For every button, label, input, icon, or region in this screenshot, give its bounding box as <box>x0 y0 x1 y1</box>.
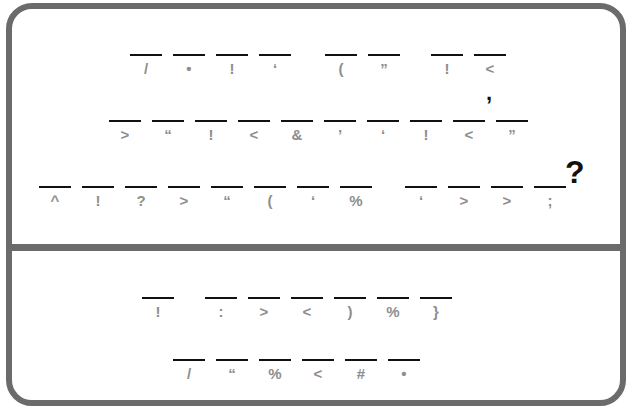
cipher-symbol: ‘ <box>367 126 399 144</box>
letter-slot[interactable]: > <box>168 186 200 216</box>
blank-line[interactable] <box>248 297 280 299</box>
letter-slot[interactable]: • <box>173 54 205 84</box>
cipher-symbol: # <box>345 365 377 383</box>
cipher-symbol: > <box>248 303 280 321</box>
letter-slot[interactable]: “ <box>216 359 248 389</box>
letter-slot[interactable]: < <box>238 120 270 150</box>
blank-line[interactable] <box>474 54 506 56</box>
blank-line[interactable] <box>152 120 184 122</box>
letter-slot[interactable]: : <box>205 297 237 327</box>
blank-line[interactable] <box>109 120 141 122</box>
letter-slot[interactable]: ‘ <box>405 186 437 216</box>
cipher-symbol: < <box>453 126 485 144</box>
letter-slot[interactable]: > <box>448 186 480 216</box>
letter-slot[interactable]: < <box>453 120 485 150</box>
cipher-symbol: “ <box>211 192 243 210</box>
blank-line[interactable] <box>345 359 377 361</box>
letter-slot[interactable]: # <box>345 359 377 389</box>
blank-line[interactable] <box>453 120 485 122</box>
blank-line[interactable] <box>334 297 366 299</box>
letter-slot[interactable]: ( <box>325 54 357 84</box>
blank-line[interactable] <box>534 186 566 188</box>
blank-line[interactable] <box>39 186 71 188</box>
letter-slot[interactable]: > <box>491 186 523 216</box>
blank-line[interactable] <box>281 120 313 122</box>
letter-slot[interactable]: ! <box>195 120 227 150</box>
blank-line[interactable] <box>205 297 237 299</box>
blank-line[interactable] <box>254 186 286 188</box>
letter-slot[interactable]: ! <box>82 186 114 216</box>
letter-slot[interactable]: ? <box>125 186 157 216</box>
cipher-symbol: ( <box>325 60 357 78</box>
blank-line[interactable] <box>431 54 463 56</box>
blank-line[interactable] <box>142 297 174 299</box>
blank-line[interactable] <box>367 120 399 122</box>
blank-line[interactable] <box>259 54 291 56</box>
letter-slot[interactable]: “ <box>152 120 184 150</box>
blank-line[interactable] <box>291 297 323 299</box>
cipher-symbol: ) <box>334 303 366 321</box>
letter-slot[interactable]: ! <box>431 54 463 84</box>
blank-line[interactable] <box>216 359 248 361</box>
letter-slot[interactable]: } <box>420 297 452 327</box>
blank-line[interactable] <box>410 120 442 122</box>
cipher-symbol: % <box>377 303 409 321</box>
letter-slot[interactable]: ‘ <box>297 186 329 216</box>
letter-slot[interactable]: • <box>388 359 420 389</box>
letter-slot[interactable]: % <box>259 359 291 389</box>
blank-line[interactable] <box>168 186 200 188</box>
blank-line[interactable] <box>302 359 334 361</box>
letter-slot[interactable]: ! <box>216 54 248 84</box>
blank-line[interactable] <box>211 186 243 188</box>
letter-slot[interactable]: < <box>302 359 334 389</box>
letter-slot[interactable]: > <box>109 120 141 150</box>
letter-slot[interactable]: ) <box>334 297 366 327</box>
letter-slot[interactable]: ‘ <box>259 54 291 84</box>
cipher-symbol: < <box>302 365 334 383</box>
blank-line[interactable] <box>125 186 157 188</box>
blank-line[interactable] <box>259 359 291 361</box>
letter-slot[interactable]: ” <box>368 54 400 84</box>
blank-line[interactable] <box>173 54 205 56</box>
blank-line[interactable] <box>340 186 372 188</box>
letter-slot[interactable]: > <box>248 297 280 327</box>
letter-slot[interactable]: ( <box>254 186 286 216</box>
question-mark: ? <box>565 156 585 188</box>
letter-slot[interactable]: ’ <box>324 120 356 150</box>
letter-slot[interactable]: “ <box>211 186 243 216</box>
cipher-symbol: • <box>388 365 420 383</box>
letter-slot[interactable]: ‘ <box>367 120 399 150</box>
blank-line[interactable] <box>216 54 248 56</box>
letter-slot[interactable]: ! <box>410 120 442 150</box>
letter-slot[interactable]: ^ <box>39 186 71 216</box>
blank-line[interactable] <box>325 54 357 56</box>
blank-line[interactable] <box>388 359 420 361</box>
letter-slot[interactable]: ! <box>142 297 174 327</box>
blank-line[interactable] <box>238 120 270 122</box>
letter-slot[interactable]: ; <box>534 186 566 216</box>
blank-line[interactable] <box>297 186 329 188</box>
letter-slot[interactable]: ” <box>496 120 528 150</box>
cipher-symbol: > <box>168 192 200 210</box>
blank-line[interactable] <box>173 359 205 361</box>
blank-line[interactable] <box>420 297 452 299</box>
blank-line[interactable] <box>448 186 480 188</box>
blank-line[interactable] <box>405 186 437 188</box>
letter-slot[interactable]: % <box>377 297 409 327</box>
letter-slot[interactable]: % <box>340 186 372 216</box>
cipher-symbol: % <box>340 192 372 210</box>
letter-slot[interactable]: / <box>130 54 162 84</box>
blank-line[interactable] <box>324 120 356 122</box>
blank-line[interactable] <box>491 186 523 188</box>
letter-slot[interactable]: & <box>281 120 313 150</box>
blank-line[interactable] <box>130 54 162 56</box>
cipher-symbol: ‘ <box>297 192 329 210</box>
blank-line[interactable] <box>496 120 528 122</box>
blank-line[interactable] <box>195 120 227 122</box>
blank-line[interactable] <box>82 186 114 188</box>
letter-slot[interactable]: < <box>291 297 323 327</box>
blank-line[interactable] <box>377 297 409 299</box>
blank-line[interactable] <box>368 54 400 56</box>
cipher-symbol: ! <box>195 126 227 144</box>
letter-slot[interactable]: / <box>173 359 205 389</box>
